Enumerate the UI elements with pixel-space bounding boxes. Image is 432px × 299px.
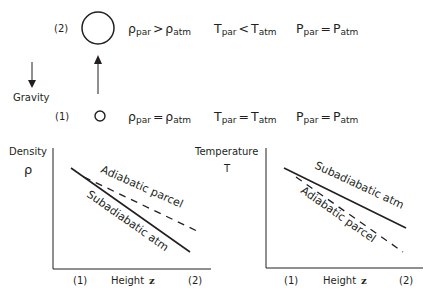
temperature-axis-symbol: T	[223, 163, 231, 174]
small-parcel-circle	[95, 111, 105, 121]
state2-temperature-relation: Tpar<Tatm	[213, 21, 277, 37]
svg-text:Tpar=Tatm: Tpar=Tatm	[213, 109, 277, 125]
large-parcel-circle	[82, 12, 114, 44]
state2-density-relation: ρpar>ρatm	[128, 21, 191, 37]
state1-label: (1)	[55, 111, 69, 122]
state1-pressure-relation: Ppar=Patm	[296, 109, 358, 125]
density-x-right-label: (2)	[188, 275, 202, 286]
temperature-x-left-label: (1)	[284, 275, 298, 286]
temperature-x-right-label: (2)	[399, 275, 413, 286]
state1-density-relation: ρpar=ρatm	[128, 109, 191, 125]
svg-text:Tpar<Tatm: Tpar<Tatm	[213, 21, 277, 37]
svg-text:Ppar=Patm: Ppar=Patm	[296, 109, 358, 125]
density-x-axis-label: Heightz	[111, 275, 155, 286]
density-axis-symbol: ρ	[24, 162, 32, 177]
state2-pressure-relation: Ppar=Patm	[296, 21, 358, 37]
gravity-arrow-icon	[28, 62, 36, 88]
parcel-stability-diagram: (2) ρpar>ρatm Tpar<Tatm Ppar=Patm Gravit…	[0, 0, 432, 299]
temperature-chart: Temperature T Subadiabatic atm Adiabatic…	[194, 146, 423, 286]
density-axis-label: Density	[9, 146, 47, 157]
svg-text:ρpar=ρatm: ρpar=ρatm	[128, 109, 191, 125]
temperature-axis-label: Temperature	[194, 146, 258, 157]
rise-arrow-icon	[94, 55, 102, 94]
gravity-label: Gravity	[13, 92, 50, 103]
temperature-x-axis-label: Heightz	[323, 275, 367, 286]
density-x-left-label: (1)	[73, 275, 87, 286]
state1-temperature-relation: Tpar=Tatm	[213, 109, 277, 125]
state2-label: (2)	[54, 23, 68, 34]
svg-text:Ppar=Patm: Ppar=Patm	[296, 21, 358, 37]
density-chart: Density ρ Adiabatic parcel Subadiabatic …	[9, 146, 211, 286]
svg-text:ρpar>ρatm: ρpar>ρatm	[128, 21, 191, 37]
